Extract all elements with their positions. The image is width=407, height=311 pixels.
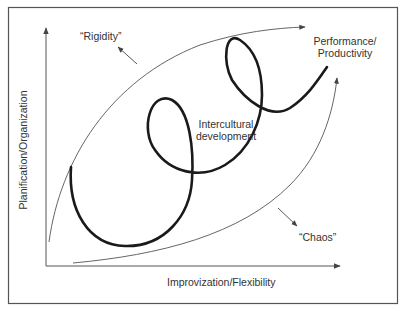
chaos-label: “Chaos” bbox=[299, 231, 336, 243]
intercultural-development-spiral bbox=[71, 38, 327, 246]
performance-label: Performance/ Productivity bbox=[300, 35, 390, 59]
lower-boundary-curve bbox=[73, 78, 337, 263]
intercultural-label-line2: development bbox=[193, 130, 259, 142]
performance-label-line2: Productivity bbox=[300, 47, 390, 59]
upper-boundary-curve bbox=[49, 27, 305, 242]
rigidity-label: “Rigidity” bbox=[80, 30, 121, 42]
performance-label-line1: Performance/ bbox=[300, 35, 390, 47]
intercultural-label-line1: Intercultural bbox=[193, 118, 259, 130]
x-axis-label: Improvization/Flexibility bbox=[167, 276, 276, 288]
rigidity-arrow bbox=[118, 47, 137, 64]
intercultural-label: Intercultural development bbox=[193, 118, 259, 142]
chaos-arrow bbox=[278, 208, 297, 226]
y-axis-label: Planification/Organization bbox=[17, 90, 29, 209]
